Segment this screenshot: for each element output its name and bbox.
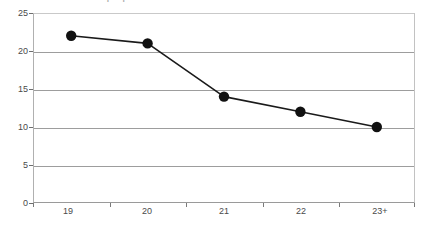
x-tick-mark: [110, 203, 111, 207]
gridline-20: [34, 52, 414, 53]
y-tick-label: 25: [4, 9, 28, 18]
x-tick-mark: [339, 203, 340, 207]
x-tick-label-19: 19: [48, 207, 88, 216]
x-tick-label-21: 21: [204, 207, 244, 216]
y-tick-label: 0: [4, 199, 28, 208]
gridline-10: [34, 128, 414, 129]
gridline-5: [34, 166, 414, 167]
y-tick-label: 15: [4, 85, 28, 94]
x-tick-label-23plus: 23+: [360, 207, 400, 216]
plot-area: [33, 13, 415, 203]
y-tick-label: 10: [4, 123, 28, 132]
y-tick-label: 20: [4, 47, 28, 56]
x-tick-label-20: 20: [127, 207, 167, 216]
x-tick-label-22: 22: [281, 207, 321, 216]
y-axis: 25 20 15 10 5 0: [0, 0, 28, 232]
x-tick-mark: [414, 203, 415, 207]
line-chart: Number of people 25 20 15 10 5 0 19 20 2…: [0, 0, 425, 232]
y-tick-label: 5: [4, 161, 28, 170]
chart-title: Number of people: [60, 0, 270, 2]
x-tick-mark: [186, 203, 187, 207]
x-tick-mark: [263, 203, 264, 207]
gridline-15: [34, 90, 414, 91]
x-tick-mark: [33, 203, 34, 207]
